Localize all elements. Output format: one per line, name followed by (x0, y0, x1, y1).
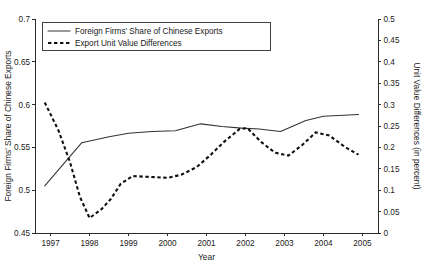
right-tick-label: 0.45 (384, 36, 400, 45)
right-tick-label: 0.3 (384, 101, 396, 110)
series-line-solid (45, 114, 359, 185)
x-tick-label: 1997 (41, 239, 60, 248)
x-tick-label: 2004 (314, 239, 333, 248)
left-tick-label: 0.7 (19, 15, 31, 24)
dual-axis-line-chart: 0.450.50.550.60.650.7 00.050.10.150.20.2… (0, 0, 424, 278)
x-tick-label: 2002 (236, 239, 255, 248)
right-tick-label: 0.4 (384, 58, 396, 67)
x-tick-label: 1999 (119, 239, 138, 248)
left-tick-label: 0.65 (14, 58, 30, 67)
chart-figure: 0.450.50.550.60.650.7 00.050.10.150.20.2… (0, 0, 424, 278)
series-line-dashed (45, 102, 359, 218)
x-tick-label: 1998 (80, 239, 99, 248)
left-axis-ticks: 0.450.50.550.60.650.7 (14, 15, 35, 238)
x-tick-label: 2000 (158, 239, 177, 248)
legend-label: Export Unit Value Differences (75, 39, 182, 48)
right-tick-label: 0.05 (384, 208, 400, 217)
y-axis-title: Foreign Firms' Share of Chinese Exports (3, 50, 13, 201)
plot-frame (35, 19, 378, 233)
x-tick-label: 2005 (353, 239, 372, 248)
legend-label: Foreign Firms' Share of Chinese Exports (75, 27, 223, 36)
x-axis-ticks: 199719981999200020012002200320042005 (41, 233, 371, 248)
series-layer (45, 102, 359, 218)
left-tick-label: 0.45 (14, 229, 30, 238)
left-tick-label: 0.5 (19, 186, 31, 195)
right-tick-label: 0.25 (384, 122, 400, 131)
right-axis-ticks: 00.050.10.150.20.250.30.350.40.450.5 (378, 15, 400, 238)
left-tick-label: 0.6 (19, 101, 31, 110)
y2-axis-title: Unit Value Differences (in percent) (412, 62, 422, 189)
right-tick-label: 0.35 (384, 79, 400, 88)
right-tick-label: 0.5 (384, 15, 396, 24)
chart-legend: Foreign Firms' Share of Chinese ExportsE… (42, 22, 270, 50)
right-tick-label: 0.1 (384, 186, 396, 195)
x-tick-label: 2001 (197, 239, 216, 248)
left-tick-label: 0.55 (14, 143, 30, 152)
right-tick-label: 0.15 (384, 165, 400, 174)
right-tick-label: 0 (384, 229, 389, 238)
x-axis-title: Year (198, 252, 215, 262)
x-tick-label: 2003 (275, 239, 294, 248)
right-tick-label: 0.2 (384, 143, 396, 152)
